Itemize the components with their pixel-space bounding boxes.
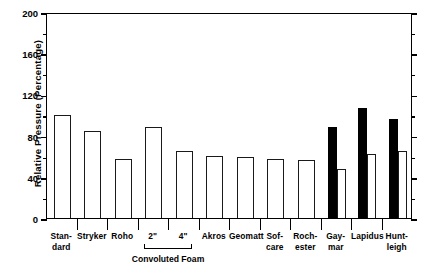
bar	[54, 115, 71, 218]
y-axis-major-tick	[411, 137, 417, 139]
y-axis-tick-label: 160	[22, 50, 38, 60]
y-axis-minor-tick	[411, 75, 415, 76]
x-axis-category-label: Gay-mar	[321, 231, 352, 252]
y-axis-minor-tick	[43, 199, 47, 200]
group-bracket	[144, 244, 192, 249]
y-axis-tick-label: 200	[22, 9, 38, 19]
x-axis-category-label: Stryker	[77, 231, 108, 242]
x-axis-category-label: Lapidus	[351, 231, 382, 242]
y-axis-minor-tick	[411, 199, 415, 200]
bar	[298, 160, 315, 218]
y-axis-major-tick	[411, 178, 417, 180]
x-axis-separator	[351, 219, 352, 230]
y-axis-tick-label: 120	[22, 92, 38, 102]
category-label-line: Geomatt	[229, 231, 260, 242]
x-axis-category-label: 4"	[168, 231, 199, 242]
bar	[206, 156, 223, 218]
plot-inner: 04080120160200	[47, 14, 411, 218]
bar	[145, 127, 162, 218]
bar	[84, 131, 101, 218]
bar	[237, 157, 254, 218]
bar	[367, 154, 376, 218]
y-axis-major-tick	[411, 13, 417, 15]
category-label-line: care	[260, 242, 291, 253]
category-label-line: leigh	[382, 242, 413, 253]
plot-area: 04080120160200	[46, 13, 412, 219]
y-axis-minor-tick	[43, 158, 47, 159]
x-axis-separator	[382, 219, 383, 230]
bar-chart: Relative Pressure (Percentage) 040801201…	[0, 0, 430, 271]
y-axis-major-tick	[41, 178, 47, 180]
y-axis-major-tick	[41, 13, 47, 15]
x-axis-separator	[77, 219, 78, 230]
category-label-line: mar	[321, 242, 352, 253]
category-label-line: Akros	[199, 231, 230, 242]
x-axis-category-label: 2"	[138, 231, 169, 242]
category-label-line: Roch-	[290, 231, 321, 242]
category-label-line: Gay-	[321, 231, 352, 242]
bar	[398, 151, 407, 218]
y-axis-minor-tick	[411, 158, 415, 159]
x-axis-category-label: Roho	[107, 231, 138, 242]
y-axis-major-tick	[411, 96, 417, 98]
bar	[328, 127, 337, 218]
y-axis-major-tick	[41, 54, 47, 56]
category-label-line: dard	[46, 242, 77, 253]
bar	[267, 159, 284, 218]
category-label-line: Roho	[107, 231, 138, 242]
x-axis-category-label: Sof-care	[260, 231, 291, 252]
bar	[176, 151, 193, 218]
x-axis-separator	[168, 219, 169, 230]
x-axis-separator	[138, 219, 139, 230]
x-axis-category-label: Hunt-leigh	[382, 231, 413, 252]
bar	[337, 169, 346, 218]
x-axis-category-label: Akros	[199, 231, 230, 242]
x-axis-separator	[199, 219, 200, 230]
group-bracket-label: Convoluted Foam	[104, 254, 232, 264]
x-axis-category-label: Geomatt	[229, 231, 260, 242]
category-label-line: Sof-	[260, 231, 291, 242]
category-label-line: 2"	[138, 231, 169, 242]
y-axis-tick-label: 80	[27, 133, 38, 143]
y-axis-major-tick	[41, 96, 47, 98]
y-axis-minor-tick	[411, 116, 415, 117]
x-axis-separator	[260, 219, 261, 230]
x-axis-separator	[290, 219, 291, 230]
y-axis-major-tick	[41, 137, 47, 139]
y-axis-major-tick	[411, 54, 417, 56]
category-label-line: Lapidus	[351, 231, 382, 242]
category-label-line: Stan-	[46, 231, 77, 242]
y-axis-tick-label: 40	[27, 174, 38, 184]
x-axis-separator	[229, 219, 230, 230]
bar	[389, 119, 398, 218]
y-axis-major-tick	[41, 219, 47, 221]
y-axis-tick-label: 0	[33, 215, 38, 225]
y-axis-minor-tick	[43, 75, 47, 76]
y-axis-minor-tick	[411, 34, 415, 35]
y-axis-major-tick	[411, 219, 417, 221]
category-label-line: Hunt-	[382, 231, 413, 242]
category-label-line: 4"	[168, 231, 199, 242]
category-label-line: ester	[290, 242, 321, 253]
bar	[358, 108, 367, 218]
y-axis-minor-tick	[43, 34, 47, 35]
x-axis-separator	[321, 219, 322, 230]
y-axis-minor-tick	[43, 116, 47, 117]
x-axis-category-label: Stan-dard	[46, 231, 77, 252]
bar	[115, 159, 132, 218]
x-axis-category-label: Roch-ester	[290, 231, 321, 252]
x-axis-separator	[107, 219, 108, 230]
category-label-line: Stryker	[77, 231, 108, 242]
